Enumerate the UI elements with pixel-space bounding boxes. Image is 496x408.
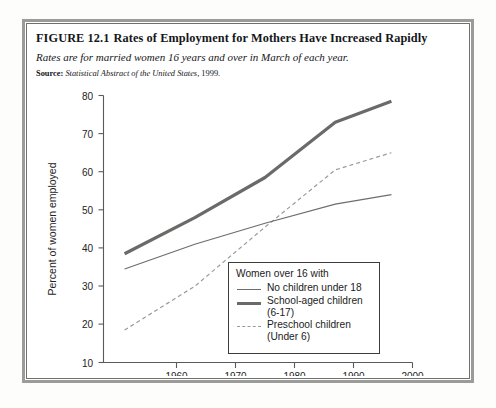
figure-number: FIGURE 12.1 <box>36 31 110 45</box>
legend-label-no-children: No children under 18 <box>267 282 362 294</box>
legend-item-no-children: No children under 18 <box>236 282 373 294</box>
y-tick-label: 60 <box>82 167 94 178</box>
series-school-aged-children <box>125 101 392 254</box>
legend-title: Women over 16 with <box>236 268 373 279</box>
figure-title-line: FIGURE 12.1Rates of Employment for Mothe… <box>36 31 460 46</box>
y-axis-ticks <box>99 96 104 363</box>
legend-item-preschool: Preschool children(Under 6) <box>236 319 373 342</box>
y-tick-label: 80 <box>82 91 94 102</box>
x-tick-label: 1980 <box>283 371 306 376</box>
x-tick-label: 1970 <box>224 371 247 376</box>
figure-source: Source: Statistical Abstract of the Unit… <box>36 69 460 78</box>
y-tick-label: 70 <box>82 129 94 140</box>
figure-page: FIGURE 12.1Rates of Employment for Mothe… <box>0 0 496 408</box>
legend-swatch-thin-line-icon <box>236 283 262 294</box>
source-year: 1999. <box>201 69 220 78</box>
x-axis-tick-labels: 1960 1970 1980 1990 2000 <box>165 371 424 376</box>
x-axis-ticks <box>177 363 413 369</box>
legend-item-school-aged: School-aged children(6-17) <box>236 295 373 318</box>
x-tick-label: 1990 <box>342 371 365 376</box>
legend-swatch-bold-line-icon <box>236 296 262 307</box>
legend-swatch-dashed-line-icon <box>236 320 262 331</box>
y-tick-label: 40 <box>82 243 94 254</box>
x-tick-label: 2000 <box>401 371 424 376</box>
y-axis-title: Percent of women employed <box>46 162 58 295</box>
y-tick-label: 10 <box>82 358 94 369</box>
y-tick-label: 50 <box>82 205 94 216</box>
x-tick-label: 1960 <box>165 371 188 376</box>
figure-subtitle: Rates are for married women 16 years and… <box>36 51 460 63</box>
chart-legend: Women over 16 with No children under 18 … <box>228 262 380 354</box>
source-text: Statistical Abstract of the United State… <box>65 69 199 78</box>
y-tick-label: 20 <box>82 319 94 330</box>
y-axis-tick-labels: 80 70 60 50 40 30 20 10 <box>82 91 94 369</box>
figure-header: FIGURE 12.1Rates of Employment for Mothe… <box>36 31 460 78</box>
page-title: Rates of Employment for Mothers Have Inc… <box>114 31 428 45</box>
source-label: Source: <box>36 69 63 78</box>
legend-label-preschool: Preschool children(Under 6) <box>267 319 351 342</box>
legend-label-school-aged: School-aged children(6-17) <box>267 295 363 318</box>
y-tick-label: 30 <box>82 281 94 292</box>
